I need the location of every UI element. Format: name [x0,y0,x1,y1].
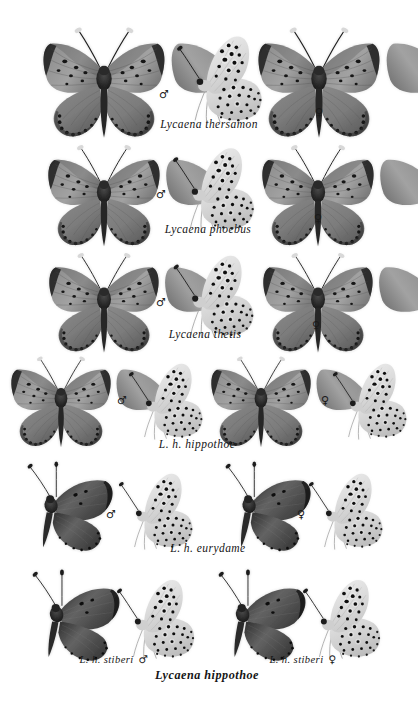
specimen-phoebus-male-dorsal [44,140,164,252]
male-symbol-eurydame: ♂ [106,509,116,520]
caption-stiberi-female: L. h. stiberi♀ [269,654,336,665]
caption-phoebus: Lycaena phoebus [165,223,252,235]
female-symbol-hippothoe: ♀ [321,395,329,406]
male-symbol-stiberi: ♂ [139,654,149,665]
specimen-stiberi-female-dorsal [212,568,316,666]
caption-thersamon: Lycaena thersamon [160,118,258,130]
row-hippothoe-hippothoe: ♂ ♀ L. h. hippothoe [0,352,418,456]
male-symbol-thersamon: ♂ [159,89,169,100]
caption-stiberi-male: L. h. stiberi♂ [80,654,149,665]
specimen-stiberi-male-ventral [116,572,200,664]
specimen-hippothoe-male-ventral [128,356,208,444]
male-symbol-thetis: ♂ [156,297,166,308]
female-symbol-eurydame: ♀ [297,509,305,520]
specimen-plate: ♂ ♀ Lycaena thersamon ♂ ♀ Lycaena phoebu… [0,0,418,714]
specimen-stiberi-female-ventral [302,572,386,664]
row-thetis: ♂ ♀ Lycaena thetis [0,244,418,356]
row-hippothoe-stiberi: L. h. stiberi♂ L. h. stiberi♀ Lycaena hi… [0,568,418,688]
specimen-thetis-male-dorsal [44,248,164,358]
specimen-eurydame-male-ventral [118,466,198,554]
female-symbol-phoebus: ♀ [314,213,322,224]
female-symbol-stiberi: ♀ [328,654,336,665]
row-phoebus: ♂ ♀ Lycaena phoebus [0,134,418,246]
row-hippothoe-eurydame: ♂ ♀ L. h. eurydame [0,458,418,562]
specimen-phoebus-male-ventral [172,140,260,236]
female-symbol-thersamon: ♀ [315,107,323,118]
male-symbol-phoebus: ♂ [156,189,166,200]
specimen-thersamon-male-dorsal [40,22,168,144]
male-symbol-hippothoe: ♂ [117,395,127,406]
specimen-thetis-female-dorsal [258,248,378,358]
specimen-stiberi-male-dorsal [26,568,130,666]
specimen-thersamon-female-dorsal [255,22,383,144]
caption-thetis: Lycaena thetis [169,328,242,340]
specimen-hippothoe-female-dorsal [198,352,324,452]
specimen-hippothoe-male-dorsal [0,352,124,452]
female-symbol-thetis: ♀ [312,320,320,331]
caption-stiberi-female-text: L. h. stiberi [269,654,323,665]
specimen-phoebus-female-dorsal [258,140,378,252]
caption-hippothoe: L. h. hippothoe [159,438,235,450]
specimen-eurydame-female-ventral [308,466,388,554]
row-thersamon: ♂ ♀ Lycaena thersamon [0,0,418,135]
caption-eurydame: L. h. eurydame [170,542,245,554]
caption-stiberi-male-text: L. h. stiberi [80,654,134,665]
specimen-hippothoe-female-ventral [332,356,412,444]
caption-lycaena-hippothoe: Lycaena hippothoe [155,668,259,683]
